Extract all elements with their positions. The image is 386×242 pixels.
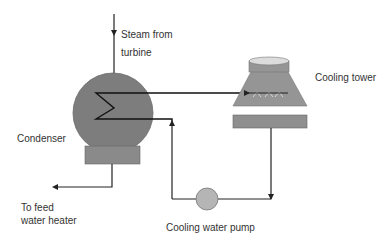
- cooling-tower-top: [249, 57, 289, 65]
- condenser-base: [85, 146, 140, 164]
- condenser-cooling-diagram: Steam from turbine Cooling tower Condens…: [0, 0, 386, 242]
- cooling-tower-basin: [233, 115, 307, 128]
- condenser-vessel: [73, 73, 153, 153]
- label-steam-from: Steam from: [121, 29, 173, 40]
- feed-arrow-icon: [52, 184, 58, 190]
- label-cooling-water-pump: Cooling water pump: [166, 222, 255, 233]
- label-water-heater: water heater: [20, 215, 77, 226]
- cooling-water-pump: [196, 188, 218, 210]
- cooling-tower-body: [233, 70, 307, 106]
- return-arrow-icon: [169, 120, 175, 126]
- label-cooling-tower: Cooling tower: [315, 72, 377, 83]
- feed-water-pipe: [55, 164, 112, 187]
- label-to-feed: To feed: [21, 202, 54, 213]
- label-turbine: turbine: [121, 47, 152, 58]
- label-condenser: Condenser: [17, 133, 67, 144]
- steam-arrow-icon: [111, 30, 117, 36]
